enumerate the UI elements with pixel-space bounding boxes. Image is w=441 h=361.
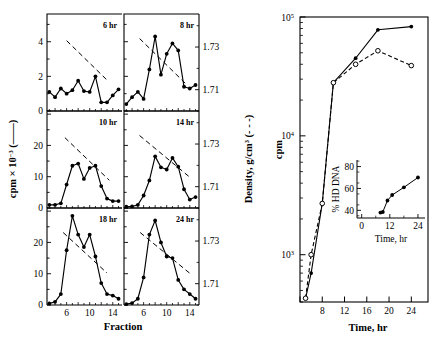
subpanel-18-hr-xtick-label: 6 — [64, 308, 69, 318]
subpanel-18-hr-data-point — [65, 248, 69, 252]
right-panel-point-open-circle — [309, 252, 314, 257]
subpanel-8-hr-data-point — [165, 52, 169, 56]
subpanel-18-hr-xtick-label: 10 — [85, 308, 95, 318]
right-panel-ytick-label: 104 — [281, 130, 295, 142]
subpanel-18-hr-data-point — [99, 281, 103, 285]
right-panel-point-open-circle — [376, 48, 381, 53]
subpanel-24-hr-data-point — [159, 241, 163, 245]
subpanel-10-hr-label: 10 hr — [99, 118, 117, 127]
subpanel-8-hr-data-point — [182, 85, 186, 89]
subpanel-14-hr-data-point — [176, 165, 180, 169]
right-panel-point-filled-circle — [376, 28, 380, 32]
subpanel-24-hr-data-point — [182, 287, 186, 291]
subpanel-8-hr-data-point — [176, 48, 180, 52]
subpanel-14-hr-density-label: 1.71 — [203, 182, 220, 192]
subpanel-6-hr-label: 6 hr — [103, 21, 117, 30]
subpanel-8-hr-data-point — [136, 90, 140, 94]
right-panel-ytick-label: 103 — [281, 249, 294, 261]
left-panel-x-axis-title: Fraction — [104, 321, 143, 332]
subpanel-18-hr-data-point — [111, 294, 115, 298]
subpanel-10-hr-data-point — [88, 166, 92, 170]
subpanel-18-hr-ytick-label: 10 — [34, 269, 44, 279]
right-panel-y-axis-title: cpm — [273, 140, 284, 160]
subpanel-10-hr-data-point — [59, 201, 63, 205]
subpanel-18-hr-cpm-line — [49, 216, 118, 304]
right-panel-xtick-label: 8 — [320, 306, 325, 316]
subpanel-14-hr-density-dashed-line — [140, 136, 191, 179]
subpanel-8-hr-cpm-line — [126, 37, 195, 105]
subpanel-6-hr-data-point — [53, 95, 57, 99]
inset-data-point — [390, 193, 394, 197]
subpanel-10-hr-data-point — [53, 203, 57, 207]
subpanel-10-hr-data-point — [105, 197, 109, 201]
inset-data-point — [381, 210, 385, 214]
figure-canvas: 0246 hr1.731.718 hr0102010 hr1.731.7114 … — [0, 0, 441, 361]
subpanel-24-hr-data-point — [147, 233, 151, 237]
inset-ytick-label: 40 — [345, 206, 355, 216]
inset-data-point — [402, 185, 406, 189]
subpanel-24-hr-data-point — [171, 256, 175, 260]
subpanel-6-hr-data-point — [88, 90, 92, 94]
subpanel-10-hr-data-point — [94, 164, 98, 168]
subpanel-6-hr-data-point — [111, 94, 115, 98]
inset-y-axis-title: % HD DNA — [331, 165, 341, 212]
subpanel-8-hr-data-point — [147, 68, 151, 72]
inset-ytick-label: 60 — [345, 184, 355, 194]
subpanel-6-hr-data-point — [82, 89, 86, 93]
inset-xtick-label: 0 — [359, 221, 364, 231]
subpanel-24-hr-data-point — [130, 301, 134, 305]
subpanel-6-hr-data-point — [105, 100, 109, 104]
subpanel-24-hr-density-label: 1.71 — [203, 279, 220, 289]
subpanel-24-hr-xtick-label: 14 — [185, 308, 195, 318]
inset-data-point — [416, 176, 420, 180]
subpanel-14-hr-data-point — [153, 154, 157, 158]
subpanel-6-hr-data-point — [59, 87, 63, 91]
subpanel-18-hr-data-point — [105, 292, 109, 296]
subpanel-6-hr-data-point — [70, 88, 74, 92]
subpanel-10-hr-data-point — [82, 177, 86, 181]
subpanel-6-hr-data-point — [94, 74, 98, 78]
subpanel-8-hr-data-point — [153, 35, 157, 39]
subpanel-10-hr-ytick-label: 20 — [34, 141, 44, 151]
subpanel-10-hr-data-point — [65, 183, 69, 187]
subpanel-10-hr-data-point — [70, 164, 74, 168]
right-panel-x-axis-title: Time, hr — [349, 322, 388, 333]
subpanel-8-hr-data-point — [130, 95, 134, 99]
right-panel-point-open-circle — [331, 80, 336, 85]
subpanel-18-hr-data-point — [70, 214, 74, 218]
right-panel-xtick-label: 24 — [407, 306, 417, 316]
subpanel-14-hr-density-label: 1.73 — [203, 139, 220, 149]
subpanel-24-hr-data-point — [136, 297, 140, 301]
subpanel-24-hr-data-point — [165, 255, 169, 259]
subpanel-24-hr-xtick-label: 10 — [162, 308, 172, 318]
subpanel-14-hr-data-point — [194, 195, 198, 199]
left-panel-right-axis-title: Density, g/cm3 (- - -) — [243, 114, 256, 203]
subpanel-8-hr-data-point — [194, 83, 198, 87]
subpanel-18-hr-xtick-label: 14 — [108, 308, 118, 318]
figure-root: 0246 hr1.731.718 hr0102010 hr1.731.7114 … — [0, 0, 441, 361]
subpanel-14-hr-data-point — [142, 194, 146, 198]
inset-ytick-label: 80 — [345, 162, 355, 172]
subpanel-8-hr-data-point — [171, 42, 175, 46]
subpanel-10-hr-data-point — [111, 199, 115, 203]
subpanel-6-hr-data-point — [47, 90, 51, 94]
subpanel-10-hr-data-point — [47, 203, 51, 207]
subpanel-14-hr-data-point — [147, 179, 151, 183]
subpanel-6-hr-density-dashed-line — [67, 41, 109, 82]
subpanel-24-hr-data-point — [124, 302, 128, 306]
right-panel-point-filled-circle — [354, 56, 358, 60]
right-panel-point-open-circle — [353, 62, 358, 67]
subpanel-8-hr-density-label: 1.71 — [203, 85, 220, 95]
subpanel-6-hr-data-point — [65, 92, 69, 96]
subpanel-14-hr-data-point — [159, 165, 163, 169]
subpanel-6-hr-data-point — [76, 79, 80, 83]
subpanel-24-hr-density-label: 1.73 — [203, 236, 220, 246]
inset-series-line — [380, 178, 418, 213]
inset-axes — [357, 160, 425, 218]
subpanel-14-hr-data-point — [136, 203, 140, 207]
inset-x-axis-title: Time, hr — [375, 234, 408, 244]
subpanel-6-hr-data-point — [99, 100, 103, 104]
subpanel-14-hr-label: 14 hr — [176, 118, 194, 127]
subpanel-10-hr-data-point — [76, 162, 80, 166]
subpanel-8-hr-data-point — [142, 97, 146, 101]
